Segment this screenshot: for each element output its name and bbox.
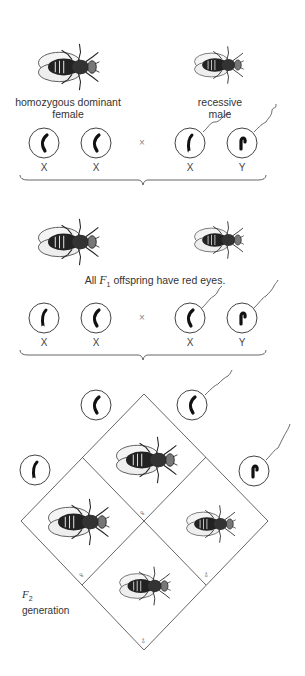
cross-symbol: × (132, 137, 152, 148)
gamete-label-y: Y (232, 162, 252, 173)
f1-female-fly (39, 219, 100, 265)
gamete-label-x: X (180, 162, 200, 173)
caption-suffix: offspring have red eyes. (111, 274, 226, 286)
cross-symbol: × (132, 312, 152, 323)
f2-label-f: F (22, 588, 29, 600)
male-label-line1: recessive (185, 96, 255, 108)
gamete-f2-female-x-top (81, 390, 111, 420)
gamete-f1-female-x-2 (81, 303, 111, 333)
f1-male-fly (195, 221, 244, 258)
female-fly-parent (39, 44, 100, 90)
brace-parents (20, 175, 266, 185)
gamete-label-x: X (34, 337, 54, 348)
gamete-label-x: X (86, 162, 106, 173)
f2-label-word: generation (22, 605, 69, 617)
gamete-f2-male-x (177, 370, 232, 420)
gamete-label-x: X (34, 162, 54, 173)
male-fly-parent (195, 46, 244, 83)
gamete-f2-female-x-left (20, 455, 50, 485)
gamete-female-x-2 (81, 128, 111, 158)
gamete-label-x: X (86, 337, 106, 348)
f2-label-sub: 2 (29, 595, 33, 602)
gamete-label-y: Y (232, 337, 252, 348)
gamete-label-x: X (180, 337, 200, 348)
gamete-f1-female-x-1 (29, 303, 59, 333)
brace-f1 (20, 350, 266, 360)
female-label-line1: homozygous dominant (8, 96, 128, 108)
male-label-line2: male (185, 108, 255, 120)
male-parent-label: recessive male (185, 96, 255, 120)
gamete-female-x-1 (29, 128, 59, 158)
f1-caption: All F1 offspring have red eyes. (60, 274, 250, 291)
caption-f: F (99, 273, 106, 287)
gamete-f2-male-y (239, 424, 290, 486)
female-label-line2: female (8, 108, 128, 120)
gamete-f1-male-x (175, 286, 222, 333)
f2-generation-label: F2 generation (22, 588, 69, 617)
female-parent-label: homozygous dominant female (8, 96, 128, 120)
caption-prefix: All (85, 274, 100, 286)
